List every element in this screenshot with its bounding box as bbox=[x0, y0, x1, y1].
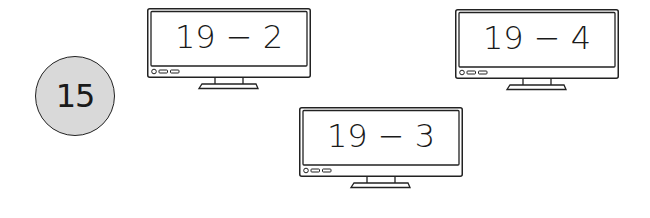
question-number-badge: 15 bbox=[35, 56, 115, 136]
expression-text: 19 − 4 bbox=[455, 9, 619, 67]
tv-screen-1: 19 − 2 bbox=[147, 8, 311, 90]
question-number: 15 bbox=[56, 77, 95, 115]
tv-screen-3: 19 − 3 bbox=[299, 107, 463, 189]
expression-text: 19 − 2 bbox=[147, 8, 311, 66]
tv-screen-2: 19 − 4 bbox=[455, 9, 619, 91]
expression-text: 19 − 3 bbox=[299, 107, 463, 165]
